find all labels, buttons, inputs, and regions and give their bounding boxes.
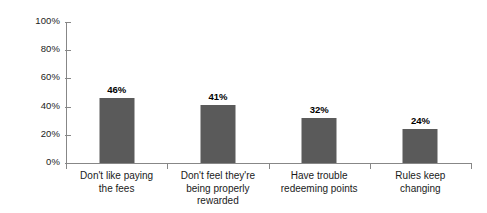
bar-value-label: 32% <box>310 104 329 115</box>
bar-group: 41% <box>167 22 268 163</box>
bar-value-label: 24% <box>411 115 430 126</box>
bar-group: 32% <box>269 22 370 163</box>
category-label: Don't feel they're being properly reward… <box>167 170 268 208</box>
plot-area: 46%41%32%24% <box>66 22 471 163</box>
x-axis-separator-tick <box>167 163 168 169</box>
x-axis-separator-tick <box>370 163 371 169</box>
y-axis-tick-label: 60% <box>41 71 60 82</box>
x-axis-separator-tick <box>66 163 67 169</box>
bar-group: 24% <box>370 22 471 163</box>
y-axis-tick-label: 0% <box>46 156 60 167</box>
y-axis-tick-label: 80% <box>41 43 60 54</box>
x-axis-separator-tick <box>269 163 270 169</box>
y-axis-tick-label: 20% <box>41 128 60 139</box>
bar[interactable] <box>99 98 134 163</box>
bar-value-label: 46% <box>107 84 126 95</box>
y-axis-tick-label: 40% <box>41 100 60 111</box>
category-label-group: Don't like paying the feesDon't feel the… <box>66 170 471 213</box>
category-label: Have trouble redeeming points <box>269 170 370 195</box>
category-label: Rules keep changing <box>370 170 471 195</box>
bar-chart: 0%20%40%60%80%100% 46%41%32%24% Don't li… <box>0 0 487 213</box>
x-axis-separator-tick <box>471 163 472 169</box>
bar[interactable] <box>200 105 235 163</box>
bar-group: 46% <box>66 22 167 163</box>
bar[interactable] <box>302 118 337 163</box>
bar[interactable] <box>403 129 438 163</box>
bar-value-label: 41% <box>209 91 228 102</box>
category-label: Don't like paying the fees <box>66 170 167 195</box>
y-axis-tick-label: 100% <box>35 15 60 26</box>
